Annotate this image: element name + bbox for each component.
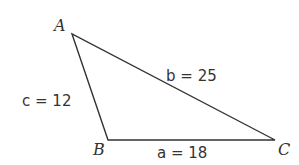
side-label-c: c = 12 (22, 92, 71, 110)
vertex-label-b: B (92, 140, 105, 159)
vertex-label-a: A (52, 16, 66, 35)
triangle-abc (72, 34, 275, 140)
side-label-b: b = 25 (166, 67, 217, 85)
triangle-diagram: A B C b = 25 c = 12 a = 18 (0, 0, 299, 165)
side-label-a: a = 18 (157, 144, 207, 162)
vertex-label-c: C (278, 140, 290, 159)
